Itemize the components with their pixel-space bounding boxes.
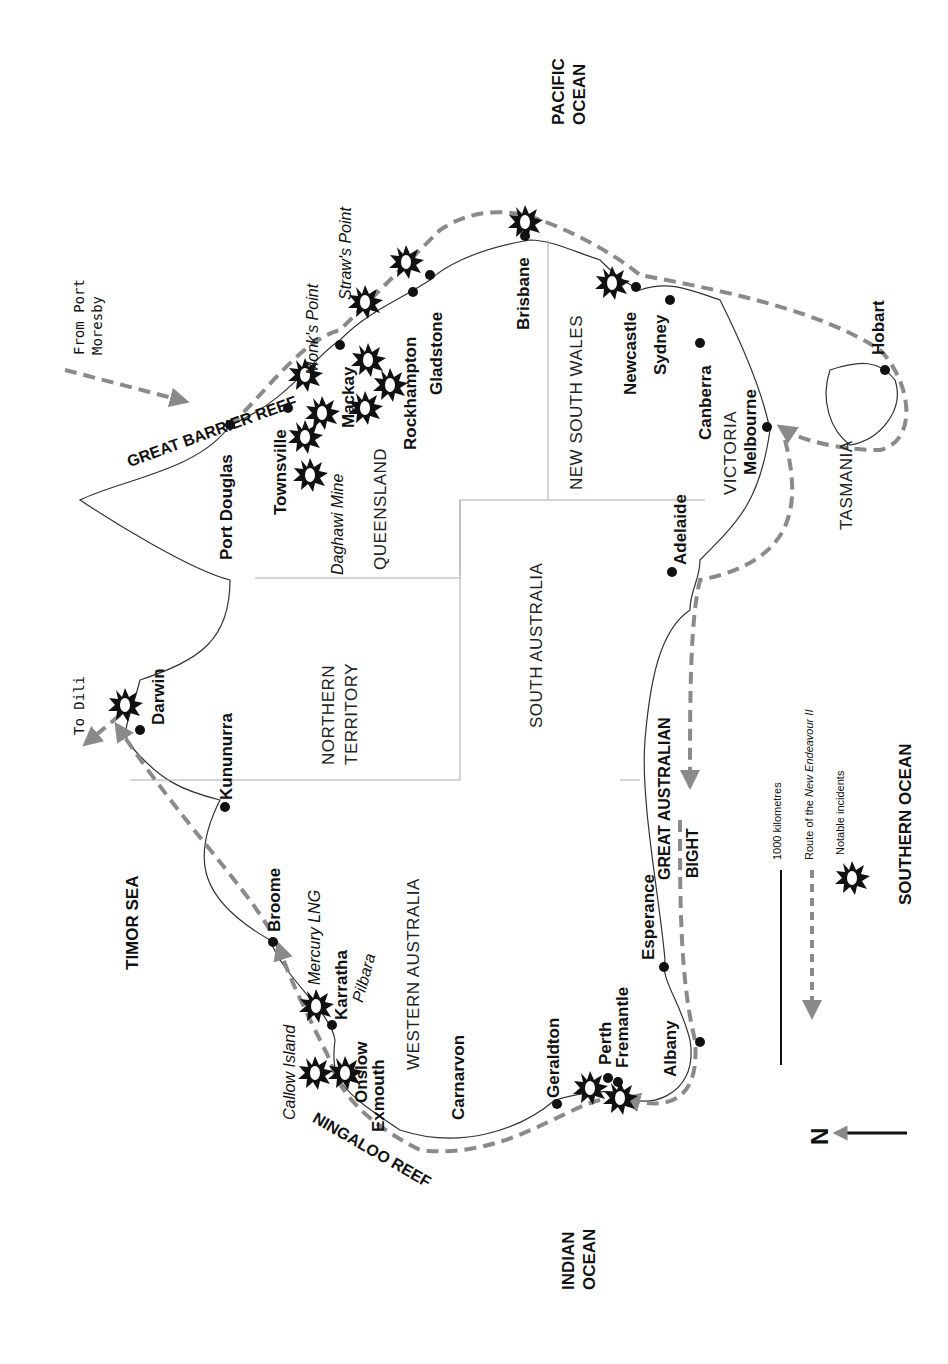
label-monks-point: Monk's Point (305, 284, 321, 375)
city-exmouth: Exmouth (370, 1059, 387, 1132)
legend-route-label: Route of the New Endeavour II (804, 710, 815, 860)
label-straws-point: Straw's Point (338, 207, 354, 300)
city-carnarvon: Carnarvon (450, 1035, 467, 1120)
label-mercury-lng: Mercury LNG (307, 890, 323, 985)
pacific-line2: OCEAN (569, 58, 590, 125)
ocean-label-southern: SOUTHERN OCEAN (895, 743, 916, 905)
state-nsw: NEW SOUTH WALES (568, 315, 585, 490)
city-newcastle: Newcastle (622, 312, 639, 395)
from-port-line2: Moresby (88, 279, 106, 355)
city-canberra: Canberra (697, 365, 714, 440)
nt-line1: NORTHERN (320, 663, 337, 765)
tasmania-coast (826, 363, 897, 445)
state-tasmania: TASMANIA (838, 440, 855, 530)
city-darwin: Darwin (150, 668, 167, 725)
city-brisbane: Brisbane (515, 257, 532, 330)
city-kununurra: Kununurra (218, 713, 235, 800)
city-onslow: Onslow (353, 1042, 370, 1103)
city-townsville: Townsville (272, 429, 289, 515)
legend-route-prefix: Route of the (803, 797, 815, 860)
ocean-label-timor: TIMOR SEA (122, 876, 143, 970)
legend-incident-icon (835, 861, 870, 895)
ocean-label-pacific: PACIFIC OCEAN (548, 58, 591, 125)
label-callow-island: Callow Island (282, 1025, 298, 1120)
city-sydney: Sydney (652, 315, 669, 375)
indian-line1: INDIAN (558, 1229, 579, 1290)
city-albany: Albany (662, 1020, 679, 1077)
label-to-dili: To Dili (70, 676, 88, 735)
city-gladstone: Gladstone (428, 312, 445, 395)
state-northern-territory: NORTHERN TERRITORY (320, 663, 360, 765)
city-hobart: Hobart (870, 300, 887, 355)
city-rockhampton: Rockhampton (402, 337, 419, 450)
legend-incidents-label: Notable incidents (835, 771, 846, 855)
label-from-port-moresby: From Port Moresby (70, 279, 106, 355)
state-queensland: QUEENSLAND (372, 448, 389, 570)
ocean-label-indian: INDIAN OCEAN (558, 1229, 601, 1290)
from-port-line1: From Port (70, 279, 88, 355)
city-melbourne: Melbourne (742, 389, 759, 475)
map-canvas (0, 0, 948, 1364)
label-gab-1: GREAT AUSTRALIAN (657, 717, 673, 880)
north-label: N (808, 1128, 832, 1145)
city-perth: Perth (597, 1022, 614, 1065)
city-fremantle: Fremantle (614, 987, 631, 1068)
label-daghawi-mine: Daghawi Mine (330, 474, 346, 575)
city-esperance: Esperance (640, 874, 657, 960)
state-south-australia: SOUTH AUSTRALIA (528, 563, 545, 728)
city-mackay: Mackay (340, 367, 357, 428)
pacific-line1: PACIFIC (548, 58, 569, 125)
city-dots (135, 231, 890, 1109)
state-western-australia: WESTERN AUSTRALIA (405, 878, 422, 1070)
city-geraldton: Geraldton (545, 1018, 562, 1098)
city-karratha: Karratha (333, 950, 350, 1020)
nt-line2: TERRITORY (343, 663, 360, 765)
indian-line2: OCEAN (579, 1229, 600, 1290)
legend-scale-label: 1000 kilometres (772, 782, 783, 860)
city-adelaide: Adelaide (672, 494, 689, 565)
city-port-douglas: Port Douglas (218, 454, 235, 560)
city-broome: Broome (266, 868, 283, 932)
label-gab-2: BIGHT (685, 828, 701, 878)
state-victoria: VICTORIA (722, 411, 739, 495)
legend-route-ship: New Endeavour II (803, 710, 815, 797)
